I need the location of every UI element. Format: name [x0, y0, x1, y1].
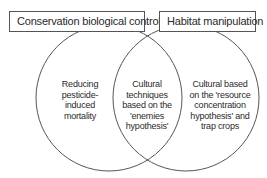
text-line: mortality: [50, 111, 110, 122]
text-line: Cultural based: [182, 79, 258, 90]
text-line: concentration: [182, 100, 258, 111]
set-label-conservation-biological-control: Conservation biological control: [9, 11, 145, 32]
text-line: hypothesis': [117, 121, 177, 132]
set-label-habitat-manipulation: Habitat manipulation: [159, 11, 256, 32]
text-line: based on the: [117, 100, 177, 111]
text-line: pesticide-: [50, 90, 110, 101]
text-line: Cultural: [117, 79, 177, 90]
text-line: on the 'resource: [182, 90, 258, 101]
text-line: techniques: [117, 90, 177, 101]
left-only-region-text: Reducing pesticide- induced mortality: [50, 79, 110, 121]
text-line: trap crops: [182, 121, 258, 132]
text-line: hypothesis' and: [182, 111, 258, 122]
text-line: 'enemies: [117, 111, 177, 122]
right-only-region-text: Cultural based on the 'resource concentr…: [182, 79, 258, 132]
intersection-region-text: Cultural techniques based on the 'enemie…: [117, 79, 177, 132]
text-line: Reducing: [50, 79, 110, 90]
text-line: induced: [50, 100, 110, 111]
